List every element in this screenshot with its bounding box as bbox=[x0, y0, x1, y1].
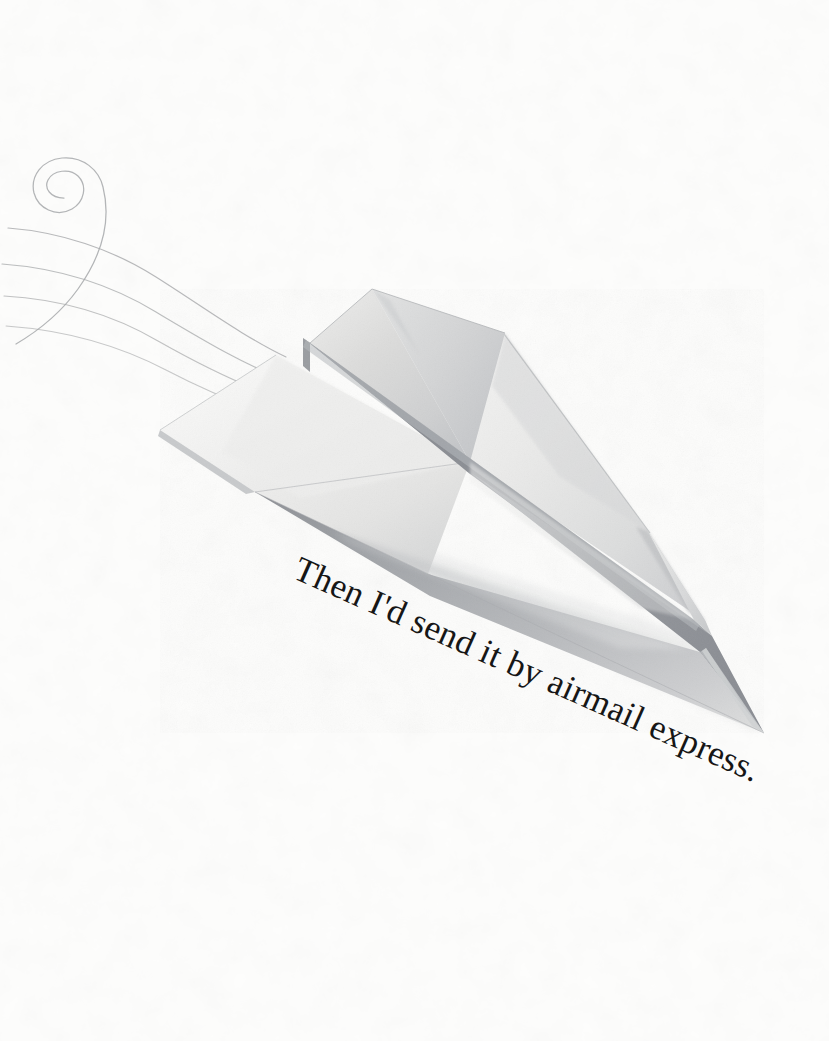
illustration-page: Then I'd send it by airmail express. bbox=[0, 0, 829, 1041]
paper-airplane-illustration bbox=[0, 0, 829, 1041]
